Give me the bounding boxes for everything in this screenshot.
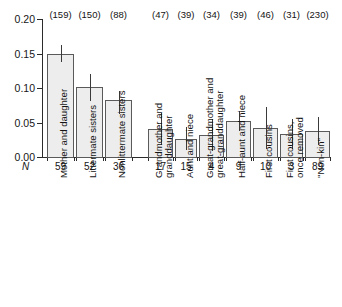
category-label: Mother and daughter — [59, 89, 69, 178]
y-tick-label: 0.10 — [1, 83, 35, 93]
category-label: First cousins, once removed — [285, 117, 306, 178]
y-tick-label-wrap: 0.05 — [0, 118, 35, 128]
category-label: Littermate sisters — [88, 105, 98, 178]
category-label: "Non-kin" — [316, 138, 326, 178]
y-tick-label: 0.05 — [1, 118, 35, 128]
category-label: Half-aunt and niece — [237, 95, 247, 178]
n-axis-label: N — [22, 161, 29, 172]
sample-count-label: (230) — [298, 10, 338, 20]
category-label: Grandmother and granddaughter — [154, 103, 175, 178]
y-tick-label: 0.00 — [1, 152, 35, 162]
y-tick-mark — [37, 88, 42, 89]
y-tick-label: 0.20 — [1, 14, 35, 24]
category-label: Nonlittermate sisters — [117, 91, 127, 178]
category-label: Great-grandmother and great-granddaughte… — [205, 78, 226, 178]
y-tick-label-wrap: 0.15 — [0, 49, 35, 59]
y-tick-mark — [37, 123, 42, 124]
y-axis-line — [42, 19, 43, 157]
y-tick-label-wrap: 0.10 — [0, 83, 35, 93]
error-bar — [61, 45, 62, 62]
bar-chart: 0.200.150.100.050.00 (159)(150)(88)(47)(… — [0, 0, 342, 307]
category-label: Aunt and niece — [185, 114, 195, 178]
y-tick-label-wrap: 0.20 — [0, 14, 35, 24]
category-label: First cousins — [264, 124, 274, 178]
y-tick-label: 0.15 — [1, 49, 35, 59]
y-tick-mark — [37, 157, 42, 158]
y-tick-label-wrap: 0.00 — [0, 152, 35, 162]
sample-count-label: (88) — [99, 10, 139, 20]
y-tick-mark — [37, 54, 42, 55]
error-bar — [90, 74, 91, 101]
